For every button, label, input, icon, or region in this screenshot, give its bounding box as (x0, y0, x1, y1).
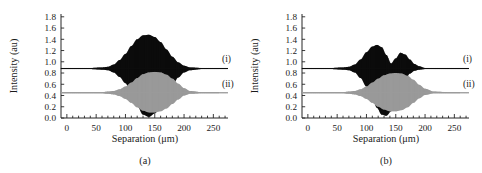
x-axis-tick-labels: 050100150200250 (65, 123, 221, 133)
x-tick-label: 150 (148, 123, 162, 133)
figure-container: 0.00.20.40.60.81.01.21.41.61.8 050100150… (0, 0, 482, 173)
y-axis-tick-labels: 0.00.20.40.60.81.01.21.41.61.8 (286, 12, 298, 123)
y-axis-title-b: Intensity (au) (249, 39, 261, 94)
y-tick-label: 1.8 (45, 12, 57, 22)
y-tick-label: 0.8 (45, 68, 57, 78)
y-tick-label: 0.2 (45, 102, 57, 112)
x-axis-title-b: Separation (μm) (353, 133, 419, 145)
y-tick-label: 0.6 (45, 80, 57, 90)
y-tick-label: 0.2 (286, 102, 298, 112)
curve-label-lower-b: (ii) (463, 78, 475, 90)
y-tick-label: 1.0 (45, 57, 57, 67)
panel-a-plot: 0.00.20.40.60.81.01.21.41.61.8 050100150… (0, 0, 241, 173)
x-tick-label: 250 (447, 123, 461, 133)
y-axis-title-a: Intensity (au) (8, 39, 20, 94)
y-tick-label: 0.8 (286, 68, 298, 78)
x-tick-label: 100 (360, 123, 374, 133)
x-axis-tick-labels: 050100150200250 (306, 123, 462, 133)
x-tick-label: 50 (92, 123, 102, 133)
x-tick-label: 50 (333, 123, 343, 133)
panel-caption-b: (b) (380, 155, 392, 167)
y-tick-label: 1.0 (286, 57, 298, 67)
trace-lower-gray (61, 72, 228, 112)
y-tick-label: 0.4 (286, 91, 298, 101)
y-tick-label: 1.8 (286, 12, 298, 22)
trace-lower-gray (302, 73, 469, 111)
curve-label-lower-a: (ii) (222, 78, 234, 90)
x-tick-label: 200 (177, 123, 191, 133)
y-tick-label: 1.2 (45, 46, 57, 56)
curve-label-upper-b: (i) (463, 53, 472, 65)
y-axis-tick-labels: 0.00.20.40.60.81.01.21.41.61.8 (45, 12, 57, 123)
curve-label-upper-a: (i) (222, 53, 231, 65)
panel-b: 0.00.20.40.60.81.01.21.41.61.8 050100150… (241, 0, 482, 173)
y-tick-label: 1.6 (286, 23, 298, 33)
x-tick-label: 250 (206, 123, 220, 133)
panel-caption-a: (a) (139, 155, 150, 167)
y-tick-label: 0.0 (45, 113, 57, 123)
x-tick-label: 0 (65, 123, 70, 133)
y-tick-label: 1.6 (45, 23, 57, 33)
panel-a-traces (61, 35, 228, 117)
x-tick-label: 200 (418, 123, 432, 133)
x-tick-label: 100 (119, 123, 133, 133)
x-tick-label: 150 (389, 123, 403, 133)
y-tick-label: 0.0 (286, 113, 298, 123)
y-tick-label: 1.4 (45, 35, 57, 45)
y-tick-label: 1.2 (286, 46, 298, 56)
y-tick-label: 0.6 (286, 80, 298, 90)
x-axis-title-a: Separation (μm) (112, 133, 178, 145)
panel-b-plot: 0.00.20.40.60.81.01.21.41.61.8 050100150… (241, 0, 482, 173)
panel-b-traces (302, 45, 469, 116)
x-tick-label: 0 (306, 123, 311, 133)
y-tick-label: 1.4 (286, 35, 298, 45)
y-tick-label: 0.4 (45, 91, 57, 101)
panel-a: 0.00.20.40.60.81.01.21.41.61.8 050100150… (0, 0, 241, 173)
